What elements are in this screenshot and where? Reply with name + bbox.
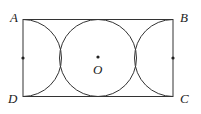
label-o: O — [93, 62, 103, 77]
label-d: D — [7, 91, 18, 106]
center-point-o — [96, 55, 99, 58]
label-b: B — [180, 10, 188, 25]
right-semicircle — [135, 20, 174, 97]
label-c: C — [180, 91, 189, 106]
left-midpoint — [21, 56, 24, 59]
label-a: A — [9, 10, 18, 25]
geometry-diagram: A B C D O — [0, 0, 201, 114]
left-semicircle — [23, 20, 62, 97]
right-midpoint — [171, 56, 174, 59]
